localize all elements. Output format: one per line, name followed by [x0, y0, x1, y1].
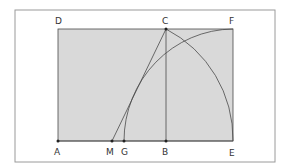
label-e: E	[229, 148, 235, 158]
label-m: M	[106, 147, 114, 157]
label-c: C	[162, 16, 168, 26]
label-a: A	[54, 147, 61, 157]
point-a	[57, 140, 60, 143]
label-f: F	[229, 16, 234, 26]
golden-rectangle-diagram: D C F A M G B E	[0, 0, 287, 168]
point-g	[123, 140, 126, 143]
label-d: D	[55, 16, 62, 26]
rectangle-adfe	[58, 29, 233, 141]
label-g: G	[121, 147, 128, 157]
label-b: B	[162, 147, 168, 157]
point-b	[165, 140, 168, 143]
point-c	[165, 28, 168, 31]
point-m	[111, 140, 114, 143]
